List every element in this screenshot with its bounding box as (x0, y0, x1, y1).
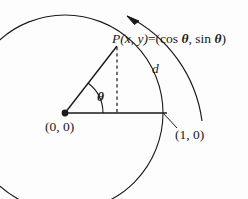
theta-symbol-cos: θ (181, 31, 188, 46)
unit-circle-figure: P(x, y)=(cos θ, sin θ) (0, 0) (1, 0) θ d (0, 0, 248, 199)
cosine-text: cos (160, 31, 181, 46)
unit-point-label: (1, 0) (175, 128, 204, 142)
figure-canvas (0, 0, 248, 199)
radius-to-p-line (65, 46, 117, 113)
origin-label: (0, 0) (45, 120, 74, 134)
unit-point-leader-line (163, 113, 177, 128)
point-p-label: P(x, y)=(cos θ, sin θ) (112, 32, 226, 46)
paren-close: ) (221, 31, 226, 46)
arc-arrowhead-icon (127, 16, 139, 25)
point-p-name: P(x, y) (112, 31, 148, 46)
origin-dot (62, 110, 69, 117)
sine-text: sin (195, 31, 214, 46)
theta-angle-label: θ (97, 90, 104, 104)
equals-sign: = (148, 31, 156, 46)
arc-length-label: d (152, 62, 159, 76)
